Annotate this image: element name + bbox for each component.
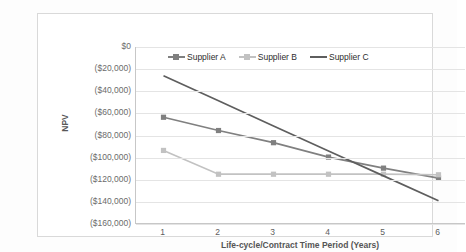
gridline — [136, 69, 465, 70]
series-marker — [161, 148, 166, 153]
y-axis-tick-label: ($160,000) — [71, 219, 131, 228]
series-marker — [381, 166, 386, 171]
gridline — [136, 113, 465, 114]
legend-item-label: Supplier A — [187, 52, 226, 62]
y-axis-tick-label: ($20,000) — [71, 64, 131, 73]
series-marker — [271, 140, 276, 145]
y-axis-tick-label: ($100,000) — [71, 153, 131, 162]
series-marker — [326, 172, 331, 177]
series-marker — [436, 172, 441, 177]
legend-swatch-icon — [310, 52, 327, 61]
chart-frame: NPV $0($20,000)($40,000)($60,000)($80,00… — [37, 13, 433, 237]
legend-item-label: Supplier C — [329, 52, 369, 62]
x-axis-tick-labels: 123456 — [135, 227, 465, 241]
y-axis-tick-label: ($60,000) — [71, 108, 131, 117]
gridline — [136, 180, 465, 181]
legend-item-supplier-b[interactable]: Supplier B — [239, 52, 297, 62]
gridline — [136, 136, 465, 137]
legend-item-supplier-a[interactable]: Supplier A — [168, 52, 226, 62]
x-axis-tick-label: 5 — [368, 227, 398, 237]
gridline — [136, 224, 465, 225]
y-axis-tick-label: ($140,000) — [71, 197, 131, 206]
series-marker — [271, 172, 276, 177]
chart-legend: Supplier ASupplier BSupplier C — [168, 50, 369, 63]
x-axis-tick-label: 3 — [258, 227, 288, 237]
series-marker — [216, 172, 221, 177]
x-axis-tick-label: 4 — [313, 227, 343, 237]
y-axis-tick-label: $0 — [71, 42, 131, 51]
x-axis-tick-label: 2 — [203, 227, 233, 237]
legend-swatch-icon — [239, 52, 256, 61]
series-marker — [161, 115, 166, 120]
gridline — [136, 47, 465, 48]
x-axis-tick-label: 1 — [148, 227, 178, 237]
y-axis-tick-label: ($120,000) — [71, 175, 131, 184]
gridline — [136, 91, 465, 92]
y-axis-tick-label: ($80,000) — [71, 131, 131, 140]
gridline — [136, 158, 465, 159]
legend-item-label: Supplier B — [258, 52, 297, 62]
legend-swatch-icon — [168, 52, 185, 61]
gridline — [136, 202, 465, 203]
series-line — [164, 76, 439, 201]
y-axis-tick-label: ($40,000) — [71, 86, 131, 95]
y-axis-tick-labels: $0($20,000)($40,000)($60,000)($80,000)($… — [68, 47, 131, 224]
x-axis-title: Life-cycle/Contract Time Period (Years) — [135, 240, 465, 250]
series-marker — [216, 128, 221, 133]
legend-item-supplier-c[interactable]: Supplier C — [310, 52, 369, 62]
x-axis-tick-label: 6 — [423, 227, 453, 237]
plot-area — [135, 47, 465, 224]
